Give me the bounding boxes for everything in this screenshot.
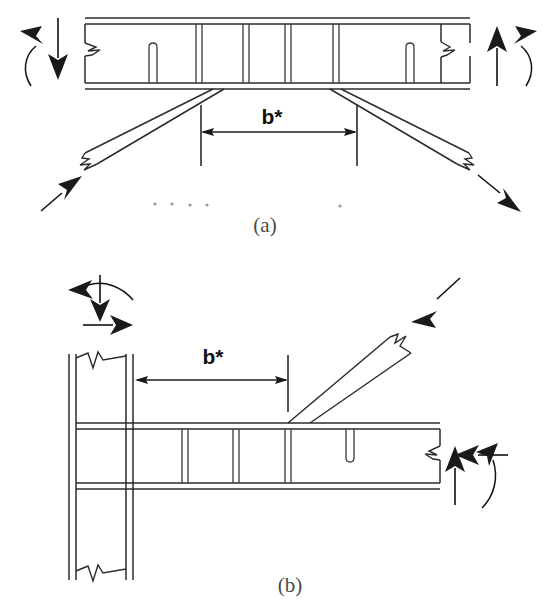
structural-diagram-figure: b* (a) — [0, 0, 553, 602]
noise-dot — [338, 204, 341, 207]
figure-background — [0, 0, 553, 602]
dim-label-b-star: b* — [262, 105, 284, 128]
b-dim-label-b-star: b* — [203, 345, 225, 368]
panel-a-caption: (a) — [253, 213, 276, 237]
noise-dot — [153, 202, 156, 205]
panel-b-caption: (b) — [278, 573, 303, 597]
noise-dot — [205, 203, 208, 206]
noise-dot — [170, 202, 173, 205]
noise-dot — [188, 203, 191, 206]
